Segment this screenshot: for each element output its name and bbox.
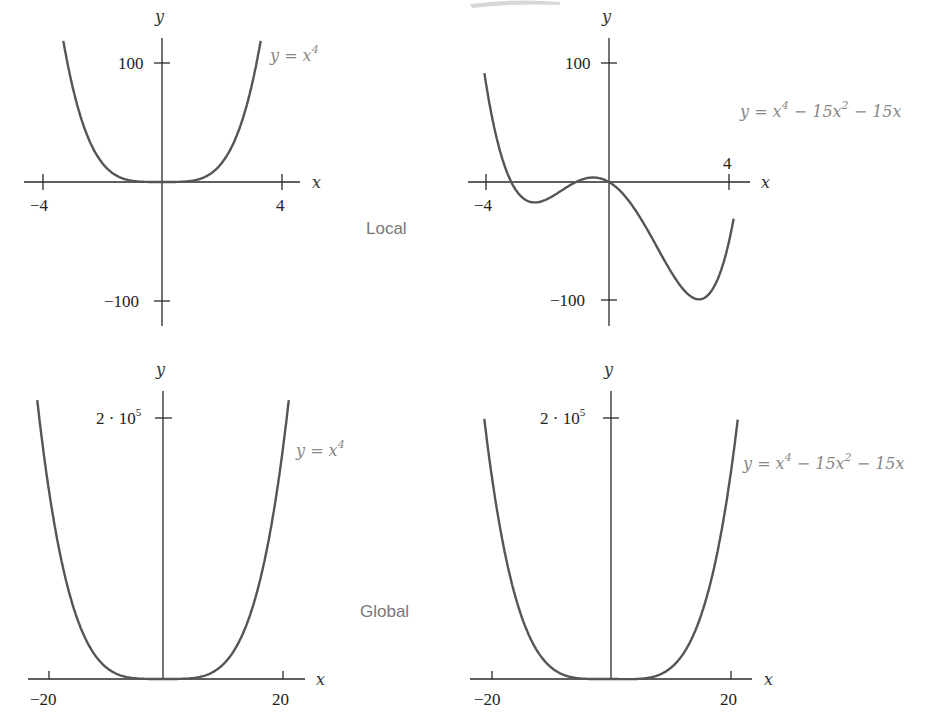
equation-label: y = x4 − 15x2 − 15x (742, 451, 905, 473)
panel-local-poly: y x −4 4 100 −100 y = x4 − 15x2 − 15x (468, 7, 902, 326)
y-axis-label: y (601, 7, 612, 26)
panel-global-poly: y x −20 20 2 · 105 y = x4 − 15x2 − 15x (470, 360, 905, 709)
x-axis-label: x (312, 173, 321, 192)
y-tick-label: 100 (118, 54, 144, 73)
x-tick-label: −20 (30, 690, 57, 709)
panel-local-x4: y x −4 4 100 −100 y = x4 (24, 7, 321, 326)
section-label-local: Local (366, 219, 407, 238)
x-tick-label: −4 (474, 196, 493, 215)
x-axis-label: x (316, 670, 325, 689)
equation-label: y = x4 − 15x2 − 15x (739, 99, 902, 121)
equation-label: y = x4 (295, 438, 345, 460)
x-tick-label: −20 (474, 690, 501, 709)
equation-label: y = x4 (269, 43, 319, 65)
x-axis-label: x (761, 173, 770, 192)
figure-canvas: y x −4 4 100 −100 y = x4 y x −4 4 100 −1… (0, 0, 936, 717)
x-tick-label: 4 (723, 154, 732, 173)
section-label-global: Global (360, 602, 409, 621)
x-tick-label: 4 (276, 196, 285, 215)
y-tick-label: −100 (550, 291, 585, 310)
y-axis-label: y (155, 360, 166, 379)
scan-artifact (470, 0, 560, 8)
y-tick-label: 2 · 105 (540, 406, 586, 428)
y-tick-label: 100 (565, 54, 591, 73)
y-axis-label: y (603, 360, 614, 379)
x-tick-label: 20 (272, 690, 289, 709)
y-tick-label: 2 · 105 (96, 406, 142, 428)
panel-global-x4: y x −20 20 2 · 105 y = x4 (28, 360, 345, 709)
x-tick-label: −4 (30, 196, 49, 215)
x-axis-label: x (764, 670, 773, 689)
y-axis-label: y (154, 7, 165, 26)
x-tick-label: 20 (720, 690, 737, 709)
y-tick-label: −100 (104, 292, 139, 311)
